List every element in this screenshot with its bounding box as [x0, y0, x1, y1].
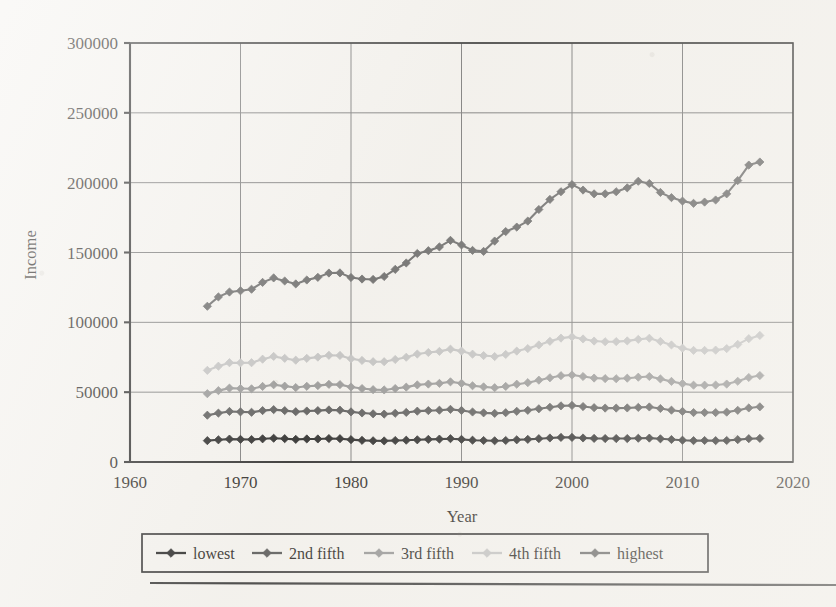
data-point-marker	[502, 382, 510, 390]
legend-item-2nd-fifth[interactable]: 2nd fifth	[252, 545, 345, 562]
data-point-marker	[601, 434, 609, 442]
data-point-marker	[701, 198, 709, 206]
series-lowest	[203, 433, 764, 445]
data-point-marker	[468, 408, 476, 416]
data-point-marker	[259, 407, 267, 415]
data-point-marker	[557, 334, 565, 342]
data-point-marker	[347, 436, 355, 444]
data-point-marker	[435, 379, 443, 387]
data-point-marker	[491, 437, 499, 445]
legend-item-4th-fifth[interactable]: 4th fifth	[472, 545, 561, 562]
data-point-marker	[557, 433, 565, 441]
data-point-marker	[457, 379, 465, 387]
data-point-marker	[557, 402, 565, 410]
data-point-marker	[281, 382, 289, 390]
data-point-marker	[336, 435, 344, 443]
data-point-marker	[601, 190, 609, 198]
data-point-marker	[491, 409, 499, 417]
data-point-marker	[214, 436, 222, 444]
data-point-marker	[314, 353, 322, 361]
data-point-marker	[358, 356, 366, 364]
legend-item-lowest[interactable]: lowest	[156, 545, 235, 562]
data-point-marker	[413, 407, 421, 415]
data-point-marker	[457, 347, 465, 355]
data-point-marker	[413, 350, 421, 358]
caption-rule	[150, 583, 836, 585]
chart-legend: lowest2nd fifth3rd fifth4th fifthhighest	[142, 534, 708, 572]
legend-item-label: lowest	[193, 545, 235, 562]
data-point-marker	[590, 374, 598, 382]
data-point-marker	[491, 352, 499, 360]
data-point-marker	[612, 188, 620, 196]
legend-item-3rd-fifth[interactable]: 3rd fifth	[364, 545, 454, 562]
legend-item-label: 2nd fifth	[289, 545, 345, 562]
data-point-marker	[667, 377, 675, 385]
data-point-marker	[468, 436, 476, 444]
data-point-marker	[314, 382, 322, 390]
data-point-marker	[502, 436, 510, 444]
legend-item-highest[interactable]: highest	[580, 545, 664, 563]
data-point-marker	[325, 351, 333, 359]
data-point-marker	[612, 434, 620, 442]
data-point-marker	[380, 386, 388, 394]
y-tick-label: 300000	[67, 34, 118, 53]
data-point-marker	[502, 409, 510, 417]
data-point-marker	[225, 288, 233, 296]
data-point-marker	[701, 346, 709, 354]
data-point-marker	[756, 371, 764, 379]
data-point-marker	[424, 435, 432, 443]
series-2nd-fifth	[203, 401, 764, 419]
data-point-marker	[270, 352, 278, 360]
data-point-marker	[745, 435, 753, 443]
data-point-marker	[568, 433, 576, 441]
data-point-marker	[358, 436, 366, 444]
data-point-marker	[336, 381, 344, 389]
data-point-marker	[590, 404, 598, 412]
x-tick-label: 1960	[113, 473, 147, 492]
data-point-marker	[424, 348, 432, 356]
data-point-marker	[214, 362, 222, 370]
data-point-marker	[524, 406, 532, 414]
data-point-marker	[303, 354, 311, 362]
data-point-marker	[612, 338, 620, 346]
data-point-marker	[723, 436, 731, 444]
data-point-marker	[325, 380, 333, 388]
data-point-marker	[325, 406, 333, 414]
figure-root: 050000100000150000200000250000300000 196…	[0, 0, 836, 607]
data-point-marker	[723, 380, 731, 388]
data-point-marker	[546, 434, 554, 442]
data-point-marker	[623, 434, 631, 442]
x-axis-tick-labels: 1960197019801990200020102020	[113, 473, 810, 492]
data-point-marker	[281, 354, 289, 362]
data-point-marker	[446, 345, 454, 353]
data-point-marker	[734, 340, 742, 348]
data-point-marker	[656, 337, 664, 345]
data-point-marker	[634, 434, 642, 442]
data-point-marker	[369, 358, 377, 366]
data-point-marker	[579, 434, 587, 442]
data-point-marker	[689, 408, 697, 416]
data-point-marker	[645, 434, 653, 442]
data-point-marker	[203, 366, 211, 374]
data-point-marker	[225, 435, 233, 443]
y-axis-tick-labels: 050000100000150000200000250000300000	[67, 34, 118, 472]
data-point-marker	[457, 241, 465, 249]
data-point-marker	[446, 435, 454, 443]
data-point-marker	[292, 435, 300, 443]
data-point-marker	[435, 347, 443, 355]
data-point-marker	[701, 408, 709, 416]
x-tick-label: 2000	[555, 473, 589, 492]
data-point-marker	[236, 359, 244, 367]
data-point-marker	[513, 347, 521, 355]
y-axis-title: Income	[21, 230, 40, 279]
data-point-marker	[667, 194, 675, 202]
data-point-marker	[601, 375, 609, 383]
data-point-marker	[656, 375, 664, 383]
data-point-marker	[270, 434, 278, 442]
data-point-marker	[259, 435, 267, 443]
data-point-marker	[281, 407, 289, 415]
data-point-marker	[491, 384, 499, 392]
data-point-marker	[214, 387, 222, 395]
data-point-marker	[579, 186, 587, 194]
chart-series-layer	[203, 158, 764, 445]
